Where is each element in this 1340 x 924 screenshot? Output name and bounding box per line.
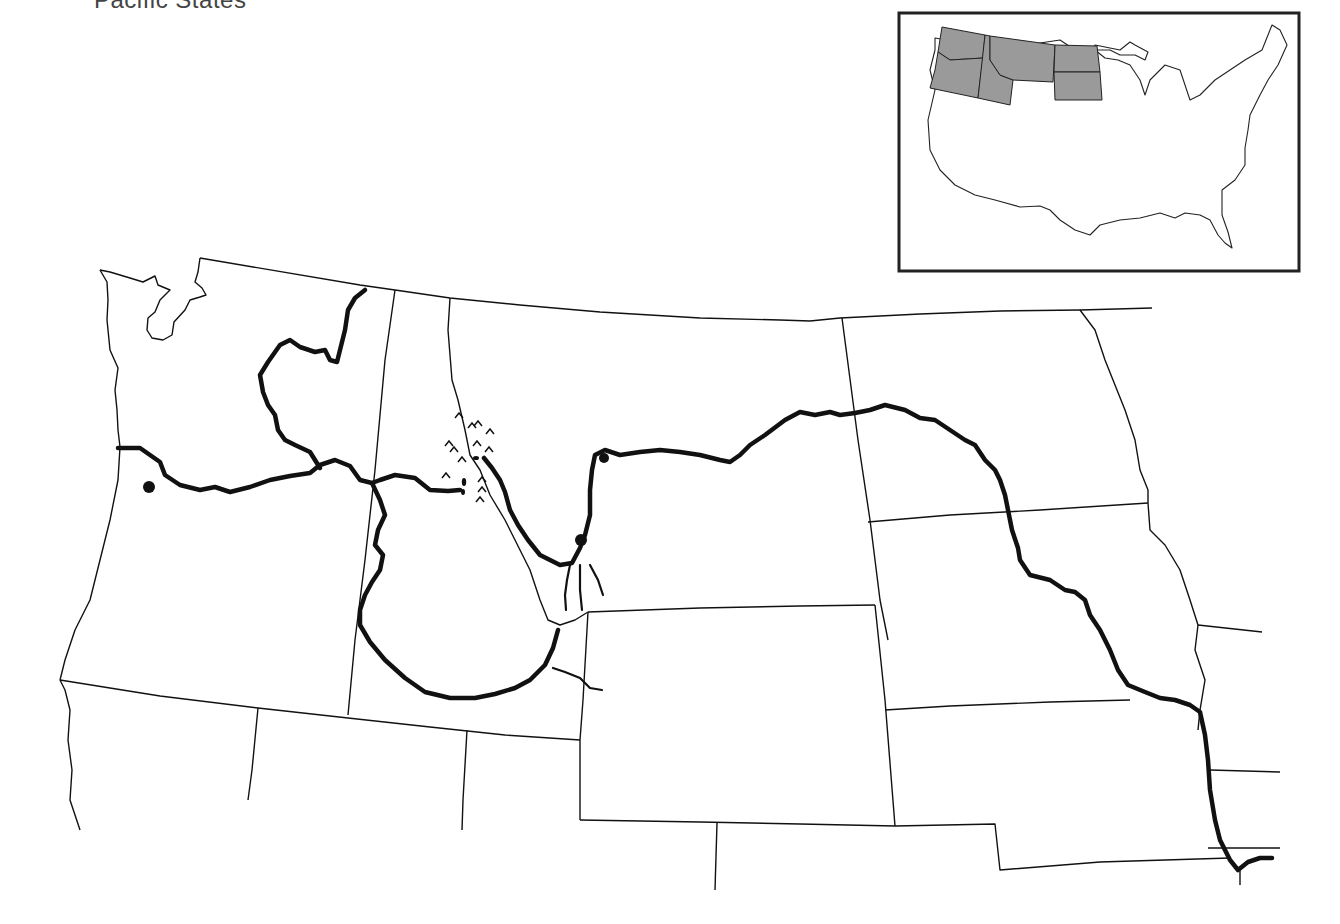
marker-great-falls [599, 453, 609, 463]
inset-locator-map [899, 13, 1299, 271]
washington-coast [100, 258, 206, 340]
main-map [0, 0, 1340, 924]
rivers [118, 290, 1272, 870]
columbia-river [118, 448, 460, 492]
marker-three-forks [575, 534, 587, 546]
marker-fort-clatsop [143, 481, 155, 493]
inset-north-dakota [1054, 45, 1100, 72]
state-borders [60, 258, 1280, 890]
inset-south-dakota [1054, 72, 1102, 100]
snake-river [360, 483, 558, 698]
oregon-coast [60, 447, 120, 680]
